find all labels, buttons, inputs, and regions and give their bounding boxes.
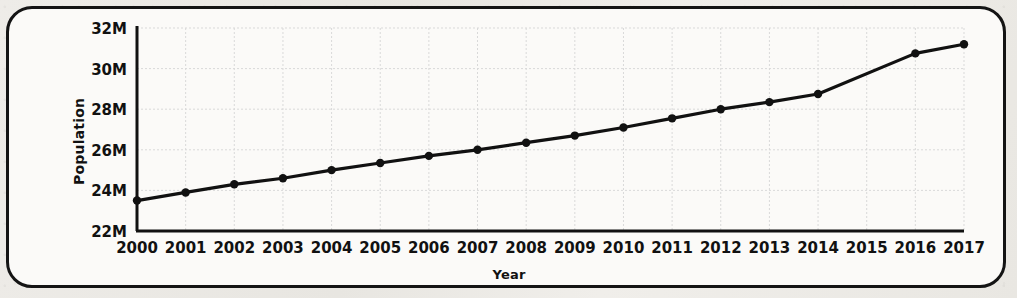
data-point-marker xyxy=(911,49,919,57)
x-tick-label: 2007 xyxy=(457,239,499,257)
x-tick-label: 2009 xyxy=(554,239,596,257)
axis-lines xyxy=(136,26,964,231)
x-tick-label: 2011 xyxy=(651,239,693,257)
x-tick-label: 2017 xyxy=(943,239,985,257)
data-point-marker xyxy=(376,159,384,167)
x-tick-label: 2016 xyxy=(894,239,936,257)
scanned-page: 22M24M26M28M30M32M 200020012002200320042… xyxy=(0,0,1017,298)
y-axis-title: Population xyxy=(71,98,87,185)
data-point-marker xyxy=(668,114,676,122)
x-tick-label: 2006 xyxy=(408,239,450,257)
data-point-marker xyxy=(181,188,189,196)
x-tick-label: 2000 xyxy=(116,239,158,257)
data-point-marker xyxy=(717,105,725,113)
x-tick-label: 2002 xyxy=(213,239,255,257)
y-tick-label: 28M xyxy=(91,101,127,119)
x-tick-label: 2004 xyxy=(311,239,353,257)
y-tick-label: 32M xyxy=(91,20,127,38)
y-tick-label: 24M xyxy=(91,182,127,200)
x-tick-labels: 2000200120022003200420052006200720082009… xyxy=(116,239,985,257)
data-series-population xyxy=(133,40,968,205)
y-tick-labels: 22M24M26M28M30M32M xyxy=(91,20,127,241)
data-point-marker xyxy=(327,166,335,174)
y-tick-label: 26M xyxy=(91,142,127,160)
x-tick-label: 2013 xyxy=(749,239,791,257)
data-point-marker xyxy=(814,90,822,98)
grid-lines xyxy=(137,28,964,231)
data-point-marker xyxy=(425,152,433,160)
x-tick-label: 2010 xyxy=(603,239,645,257)
chart-canvas: 22M24M26M28M30M32M 200020012002200320042… xyxy=(9,9,1009,291)
x-tick-label: 2008 xyxy=(505,239,547,257)
y-tick-label: 30M xyxy=(91,61,127,79)
data-point-marker xyxy=(522,138,530,146)
x-tick-label: 2012 xyxy=(700,239,742,257)
data-point-marker xyxy=(619,123,627,131)
data-point-marker xyxy=(960,40,968,48)
x-tick-label: 2014 xyxy=(797,239,839,257)
line-chart: 22M24M26M28M30M32M 200020012002200320042… xyxy=(9,9,1009,291)
data-point-marker xyxy=(230,180,238,188)
x-axis-title: Year xyxy=(9,267,1009,282)
data-point-marker xyxy=(571,131,579,139)
x-tick-label: 2003 xyxy=(262,239,304,257)
data-point-marker xyxy=(279,174,287,182)
figure-frame: 22M24M26M28M30M32M 200020012002200320042… xyxy=(6,6,1006,288)
x-tick-label: 2015 xyxy=(846,239,888,257)
data-point-marker xyxy=(765,98,773,106)
data-point-marker xyxy=(473,146,481,154)
x-tick-label: 2005 xyxy=(359,239,401,257)
data-point-marker xyxy=(133,196,141,204)
x-tick-label: 2001 xyxy=(165,239,207,257)
